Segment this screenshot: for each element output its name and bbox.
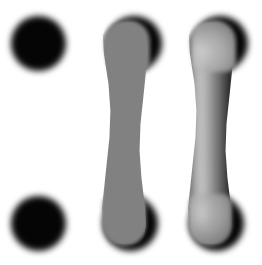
band-cap-bottom xyxy=(103,194,146,246)
panel-flat-shading xyxy=(90,0,176,265)
band-cap-top xyxy=(107,20,150,72)
figure-canvas xyxy=(0,0,262,265)
specular-highlight xyxy=(190,40,209,226)
endpoint-circle-top xyxy=(11,16,66,71)
panel-endpoints xyxy=(0,0,90,265)
endpoint-circle-bottom xyxy=(11,196,66,251)
panel-smooth-shading xyxy=(176,0,262,265)
